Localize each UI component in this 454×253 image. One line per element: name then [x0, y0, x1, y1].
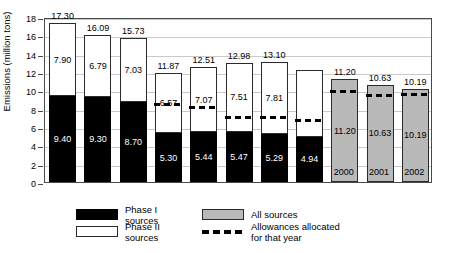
total-label: 15.73: [114, 27, 153, 36]
y-tick-label: 4: [16, 143, 36, 152]
allowance-line: [225, 116, 254, 119]
y-tick-label: 0: [16, 180, 36, 189]
value-label: 10.63: [368, 129, 393, 138]
value-label: 7.07: [191, 96, 216, 105]
phase-two-segment: 7.07: [190, 67, 217, 132]
total-label: 10.19: [396, 78, 435, 87]
total-label: 12.51: [184, 56, 223, 65]
allowance-line: [295, 119, 324, 122]
phase-two-segment: 6.79: [84, 35, 111, 97]
x-tick-label-1999: 1999: [289, 168, 329, 177]
bar-1980[interactable]: 7.909.4017.30: [49, 23, 76, 182]
total-label: 13.10: [255, 51, 294, 60]
value-label: 7.90: [50, 56, 75, 65]
y-tick-label: 14: [16, 52, 36, 61]
phase-two-swatch: [76, 226, 118, 237]
total-label: 16.09: [78, 24, 117, 33]
y-axis-label: Emissions (million tons): [1, 2, 12, 122]
phase-two-segment: [296, 70, 323, 137]
value-label: 5.29: [262, 154, 287, 163]
value-label: 9.40: [50, 135, 75, 144]
total-label: 12.98: [220, 52, 259, 61]
phase-one-swatch: [76, 209, 118, 220]
plot-area: 024681012141618 7.909.4017.306.799.3016.…: [44, 18, 432, 183]
bar-1999[interactable]: 4.94: [296, 70, 323, 182]
legend-item-phase-ii: Phase II sources: [76, 221, 180, 243]
y-tick-label: 18: [16, 15, 36, 24]
value-label: 9.30: [85, 135, 110, 144]
value-label: 5.44: [191, 153, 216, 162]
y-tick: [38, 166, 43, 167]
y-tick-label: 2: [16, 162, 36, 171]
y-tick: [38, 184, 43, 185]
value-label: 6.79: [85, 62, 110, 71]
legend-label: All sources: [251, 209, 297, 220]
phase-two-segment: 7.90: [49, 23, 76, 95]
y-tick: [38, 37, 43, 38]
x-tick-label-1990: 1990: [112, 168, 152, 177]
allowance-line: [260, 116, 289, 119]
value-label: 4.94: [297, 155, 322, 164]
y-tick: [38, 56, 43, 57]
total-label: 17.30: [43, 12, 82, 21]
value-label: 11.20: [332, 127, 357, 136]
dashed-line-swatch: [202, 230, 244, 234]
legend-label: Phase II sources: [125, 221, 180, 243]
x-tick-label-1996: 1996: [183, 168, 223, 177]
x-tick-label-1998: 1998: [253, 168, 293, 177]
value-label: 7.51: [227, 93, 252, 102]
y-tick-label: 6: [16, 125, 36, 134]
y-tick: [38, 92, 43, 93]
legend-label: Allowances allocated for that year: [251, 221, 352, 243]
y-tick: [38, 129, 43, 130]
y-tick-label: 12: [16, 70, 36, 79]
bar-1985[interactable]: 6.799.3016.09: [84, 35, 111, 182]
bar-1996[interactable]: 7.075.4412.51: [190, 67, 217, 182]
x-tick-label-1997: 1997: [218, 168, 258, 177]
x-tick-label-1985: 1985: [77, 168, 117, 177]
legend-item-all-sources: All sources: [202, 209, 352, 220]
chart-legend: Phase I sources All sources Phase II sou…: [76, 206, 416, 240]
phase-two-segment: 7.81: [261, 62, 288, 134]
x-tick-label-2002: 2002: [394, 168, 434, 177]
phase-two-segment: 7.03: [120, 38, 147, 102]
phase-two-segment: 7.51: [226, 63, 253, 132]
y-tick-label: 16: [16, 33, 36, 42]
bar-1990[interactable]: 7.038.7015.73: [120, 38, 147, 182]
bar-1995[interactable]: 6.575.3011.87: [155, 73, 182, 182]
x-tick-label-2001: 2001: [359, 168, 399, 177]
value-label: 5.47: [227, 153, 252, 162]
allowance-line: [366, 94, 395, 97]
emissions-stacked-bar-chart: Emissions (million tons) 024681012141618…: [0, 0, 454, 253]
legend-item-allowances: Allowances allocated for that year: [202, 221, 352, 243]
allowance-line: [189, 106, 218, 109]
y-tick-label: 8: [16, 107, 36, 116]
x-tick-label-2000: 2000: [324, 168, 364, 177]
value-label: 10.19: [403, 131, 428, 140]
x-tick-label-1980: 1980: [42, 168, 82, 177]
allowance-line: [154, 103, 183, 106]
y-tick: [38, 111, 43, 112]
y-tick-label: 10: [16, 88, 36, 97]
value-label: 5.30: [156, 154, 181, 163]
bar-1998[interactable]: 7.815.2913.10: [261, 62, 288, 182]
value-label: 7.81: [262, 94, 287, 103]
bar-1997[interactable]: 7.515.4712.98: [226, 63, 253, 182]
all-sources-swatch: [202, 209, 244, 220]
y-tick: [38, 147, 43, 148]
total-label: 11.87: [149, 62, 188, 71]
gridline: [45, 19, 431, 20]
x-tick-label-1995: 1995: [147, 168, 187, 177]
value-label: 8.70: [121, 138, 146, 147]
value-label: 7.03: [121, 66, 146, 75]
total-label: 10.63: [361, 74, 400, 83]
allowance-line: [330, 90, 359, 93]
y-tick: [38, 74, 43, 75]
total-label: 11.20: [325, 68, 364, 77]
allowance-line: [401, 93, 430, 96]
